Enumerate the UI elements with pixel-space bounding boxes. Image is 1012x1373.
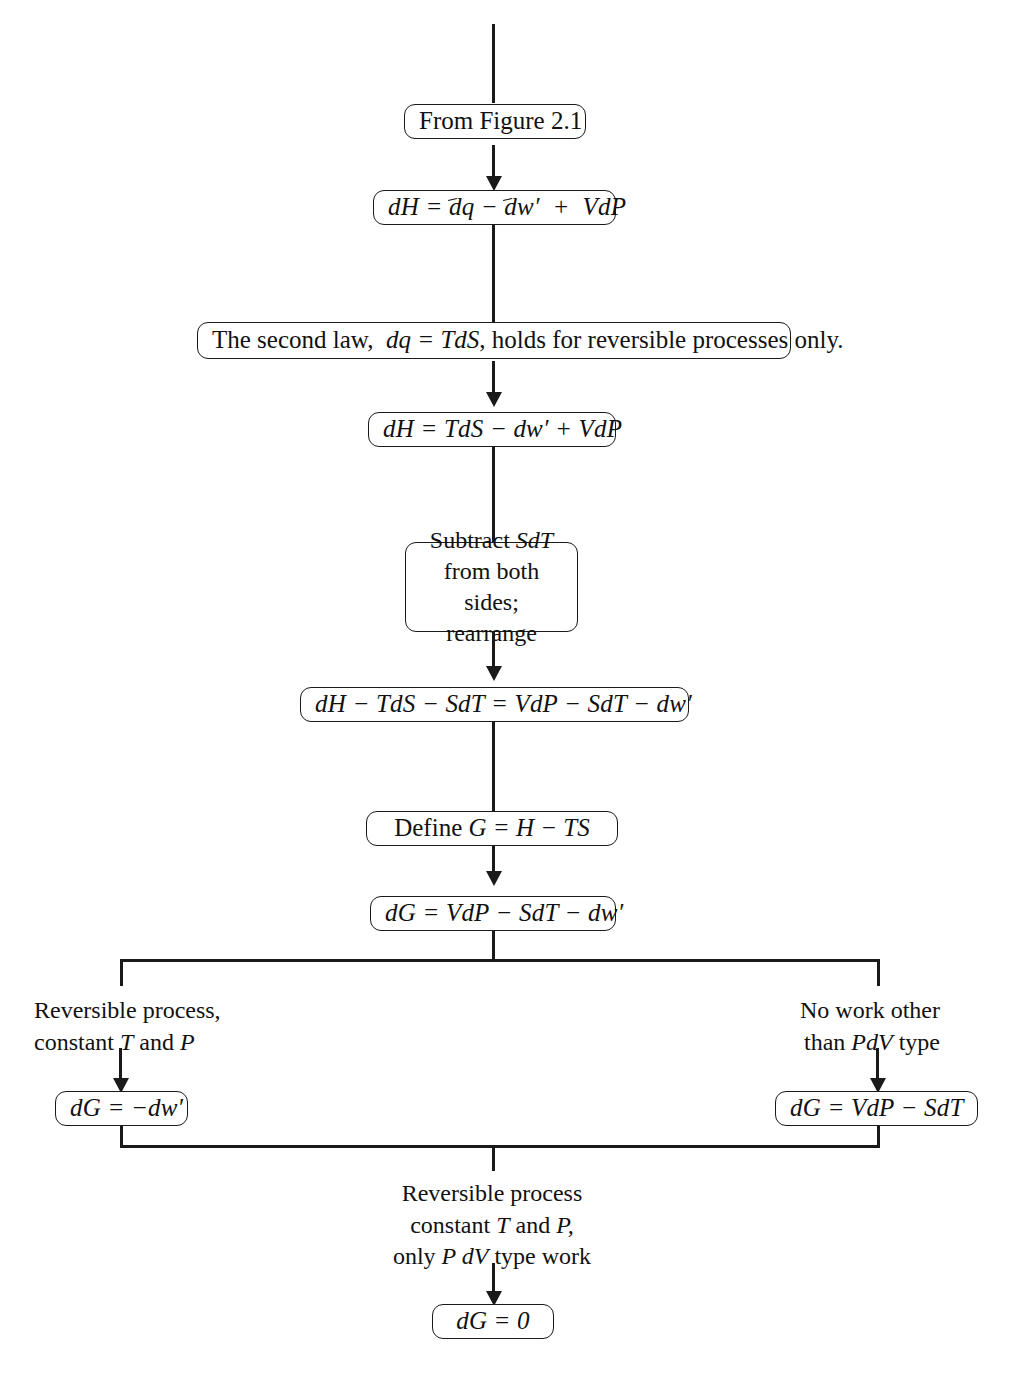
node-from-figure: From Figure 2.1 xyxy=(404,104,586,139)
node-eq-dh-tds: dH = TdS − dw′ + VdP xyxy=(368,412,616,447)
connector-left-to-dgleft xyxy=(119,1048,122,1082)
node-define-g-label: Define G = H − TS xyxy=(381,812,603,845)
connector-fork-right-drop xyxy=(877,959,880,986)
connector-fork-left-drop xyxy=(120,959,123,986)
connector-entry xyxy=(492,24,495,103)
node-eq-dg-left: dG = −dw′ xyxy=(55,1091,188,1126)
node-define-g: Define G = H − TS xyxy=(366,811,618,846)
caption-right-branch: No work other than PdV type xyxy=(700,995,940,1058)
node-from-figure-label: From Figure 2.1 xyxy=(419,105,571,138)
connector-rearranged-to-defineg xyxy=(492,722,495,811)
connector-fork-bar xyxy=(120,959,880,962)
node-eq-dh-inexact-label: dH = dq − dw′ + VdP xyxy=(388,191,601,224)
node-eq-dg-zero: dG = 0 xyxy=(432,1304,554,1339)
node-eq-rearranged-label: dH − TdS − SdT = VdP − SdT − dw′ xyxy=(315,688,674,721)
arrowhead-defineg-to-dgfull xyxy=(486,871,502,886)
node-eq-dg-full-label: dG = VdP − SdT − dw′ xyxy=(385,897,601,930)
node-eq-dg-full: dG = VdP − SdT − dw′ xyxy=(370,896,616,931)
caption-merge: Reversible process constant T and P, onl… xyxy=(342,1178,642,1273)
connector-right-to-dgright xyxy=(876,1048,879,1082)
node-eq-dh-tds-label: dH = TdS − dw′ + VdP xyxy=(383,413,601,446)
arrowhead-secondlaw-to-dhtds xyxy=(486,392,502,407)
connector-figure-to-dh xyxy=(492,145,495,180)
node-second-law: The second law, dq = TdS, holds for reve… xyxy=(197,322,791,359)
caption-left-branch: Reversible process, constant T and P xyxy=(34,995,221,1058)
node-eq-dg-zero-label: dG = 0 xyxy=(447,1305,539,1338)
node-eq-dg-right-label: dG = VdP − SdT xyxy=(790,1092,963,1125)
node-eq-dh-inexact: dH = dq − dw′ + VdP xyxy=(373,190,616,225)
arrowhead-figure-to-dh xyxy=(486,176,502,191)
connector-secondlaw-to-dhtds xyxy=(492,361,495,396)
node-eq-rearranged: dH − TdS − SdT = VdP − SdT − dw′ xyxy=(300,687,689,722)
flowchart-diagram: From Figure 2.1 dH = dq − dw′ + VdP The … xyxy=(0,0,1012,1373)
node-subtract-label: Subtract SdT from both sides; rearrange xyxy=(420,525,563,650)
node-eq-dg-left-label: dG = −dw′ xyxy=(70,1092,173,1125)
node-eq-dg-right: dG = VdP − SdT xyxy=(775,1091,978,1126)
node-subtract: Subtract SdT from both sides; rearrange xyxy=(405,542,578,632)
connector-subtract-to-rearranged xyxy=(492,632,495,670)
connector-merge-stem xyxy=(492,1145,495,1171)
connector-fork-stem xyxy=(492,931,495,961)
connector-dh-to-secondlaw xyxy=(492,225,495,322)
connector-merge-bar xyxy=(120,1145,880,1148)
node-second-law-label: The second law, dq = TdS, holds for reve… xyxy=(212,324,776,357)
arrowhead-subtract-to-rearranged xyxy=(486,666,502,681)
